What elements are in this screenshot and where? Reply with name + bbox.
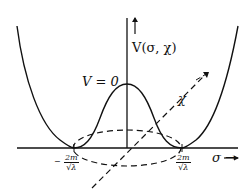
left-minimum-label: − 2m √λ	[56, 153, 79, 172]
potential-diagram	[0, 0, 251, 196]
y-axis-label: V(σ, χ)	[132, 40, 177, 55]
x-axis-label: σ →	[212, 150, 236, 165]
chi-label: χ	[178, 91, 186, 106]
peak-label: V = 0	[82, 74, 119, 89]
right-minimum-label: 2m √λ	[176, 153, 191, 172]
